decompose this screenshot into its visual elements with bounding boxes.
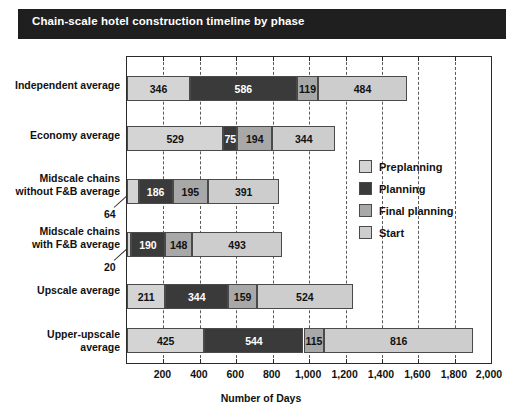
gridline-1200 (346, 57, 347, 363)
xtick-top-800 (273, 56, 274, 61)
category-label-independent: Independent average (6, 79, 120, 92)
gridline-1000 (309, 57, 310, 363)
legend-label-preplanning: Preplanning (379, 161, 443, 173)
xtick-label-200: 200 (154, 368, 172, 380)
xtick-label-1000: 1,000 (295, 368, 321, 380)
callout-midscale-fb: 20 (104, 261, 116, 273)
x-axis-title: Number of Days (0, 392, 522, 404)
category-label-upscale: Upscale average (6, 284, 120, 297)
segment-planning[interactable]: 586 (190, 76, 297, 101)
xtick-top-1200 (346, 56, 347, 61)
xtick-1400 (382, 359, 383, 364)
xtick-label-400: 400 (190, 368, 208, 380)
xtick-label-600: 600 (227, 368, 245, 380)
xtick-top-1600 (418, 56, 419, 61)
legend-swatch-start (359, 226, 372, 239)
segment-preplanning[interactable]: 211 (127, 284, 165, 309)
legend-swatch-final-planning (359, 204, 372, 217)
segment-start[interactable]: 816 (324, 328, 473, 353)
chart-title: Chain-scale hotel construction timeline … (32, 15, 305, 27)
segment-planning[interactable]: 190 (131, 232, 166, 257)
xtick-800 (273, 359, 274, 364)
category-label-upper-upscale: Upper-upscale average (6, 328, 120, 353)
xtick-1800 (455, 359, 456, 364)
segment-start[interactable]: 524 (257, 284, 353, 309)
xtick-top-600 (236, 56, 237, 61)
segment-final-planning[interactable]: 194 (237, 126, 272, 151)
xtick-top-1000 (309, 56, 310, 61)
legend: Preplanning Planning Final planning Star… (359, 157, 454, 245)
category-label-midscale-fb: Midscale chains with F&B average (6, 225, 120, 250)
segment-preplanning[interactable]: 425 (127, 328, 204, 353)
gridline-600 (236, 57, 237, 363)
legend-label-start: Start (379, 227, 404, 239)
segment-planning[interactable]: 344 (165, 284, 228, 309)
legend-label-planning: Planning (379, 183, 425, 195)
gridline-1800 (455, 57, 456, 363)
xtick-400 (200, 359, 201, 364)
segment-preplanning[interactable]: 346 (127, 76, 190, 101)
xtick-200 (163, 359, 164, 364)
segment-preplanning[interactable]: 529 (127, 126, 223, 151)
gridline-200 (163, 57, 164, 363)
xtick-label-2000: 2,000 (476, 368, 502, 380)
segment-final-planning[interactable]: 195 (173, 179, 209, 204)
segment-final-planning[interactable]: 119 (297, 76, 319, 101)
legend-item-preplanning[interactable]: Preplanning (359, 157, 454, 176)
segment-start[interactable]: 391 (208, 179, 279, 204)
xtick-top-1800 (455, 56, 456, 61)
chart-root: Chain-scale hotel construction timeline … (0, 0, 522, 420)
gridline-800 (273, 57, 274, 363)
legend-label-final-planning: Final planning (379, 205, 454, 217)
xtick-1200 (346, 359, 347, 364)
segment-final-planning[interactable]: 159 (228, 284, 257, 309)
xtick-600 (236, 359, 237, 364)
segment-final-planning[interactable]: 148 (165, 232, 192, 257)
xtick-top-200 (163, 56, 164, 61)
callout-leader-midscale-fb (114, 249, 127, 261)
segment-planning[interactable]: 186 (139, 179, 173, 204)
callout-midscale-no-fb: 64 (104, 208, 116, 220)
callout-leader-midscale-no-fb (114, 196, 127, 208)
category-label-economy: Economy average (6, 129, 120, 142)
plot-area: 346 586 119 484 529 75 194 344 186 195 3… (126, 56, 492, 364)
xtick-1000 (309, 359, 310, 364)
legend-swatch-preplanning (359, 160, 372, 173)
xtick-label-1800: 1,800 (441, 368, 467, 380)
legend-item-planning[interactable]: Planning (359, 179, 454, 198)
xtick-label-1400: 1,400 (368, 368, 394, 380)
segment-start[interactable]: 344 (272, 126, 335, 151)
xtick-label-1200: 1,200 (331, 368, 357, 380)
gridline-400 (200, 57, 201, 363)
legend-item-final-planning[interactable]: Final planning (359, 201, 454, 220)
segment-start[interactable]: 493 (192, 232, 282, 257)
xtick-label-1600: 1,600 (404, 368, 430, 380)
xtick-1600 (418, 359, 419, 364)
segment-final-planning[interactable]: 115 (304, 328, 325, 353)
xtick-top-1400 (382, 56, 383, 61)
legend-item-start[interactable]: Start (359, 223, 454, 242)
segment-planning[interactable]: 75 (223, 126, 237, 151)
segment-start[interactable]: 484 (318, 76, 406, 101)
segment-preplanning[interactable] (127, 179, 139, 204)
segment-planning[interactable]: 544 (204, 328, 303, 353)
xtick-label-800: 800 (263, 368, 281, 380)
xtick-top-400 (200, 56, 201, 61)
category-label-midscale-no-fb: Midscale chains without F&B average (6, 172, 120, 197)
legend-swatch-planning (359, 182, 372, 195)
